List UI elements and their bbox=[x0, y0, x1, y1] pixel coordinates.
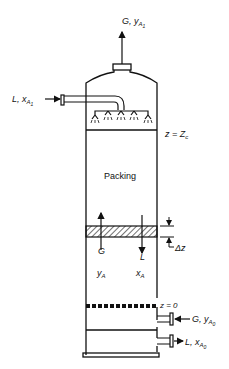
label-gas-flow: G bbox=[98, 246, 105, 256]
top-nozzle bbox=[113, 64, 131, 70]
label-gas-in: G, yA0 bbox=[192, 314, 216, 327]
label-bottom-level: z = 0 bbox=[159, 301, 178, 310]
label-top-level: z = Zc bbox=[164, 129, 188, 140]
bottom-plate bbox=[83, 353, 159, 357]
label-gas-comp: yA bbox=[96, 268, 106, 279]
label-liquid-flow: L bbox=[140, 252, 145, 262]
liquid-distributor bbox=[45, 95, 152, 123]
column-shell bbox=[83, 64, 159, 357]
differential-element bbox=[86, 226, 157, 237]
label-packing: Packing bbox=[104, 171, 136, 181]
label-gas-out: G, yA1 bbox=[122, 16, 146, 29]
label-delta-z: Δz bbox=[174, 243, 186, 253]
absorption-column-diagram: G, yA1 L, xA1 z = Zc Packing G L yA xA Δ… bbox=[0, 0, 229, 369]
label-liquid-out: L, xA0 bbox=[185, 337, 207, 350]
label-liquid-in: L, xA1 bbox=[12, 94, 34, 107]
delta-z-dimension bbox=[160, 217, 174, 247]
label-liquid-comp: xA bbox=[135, 268, 145, 279]
